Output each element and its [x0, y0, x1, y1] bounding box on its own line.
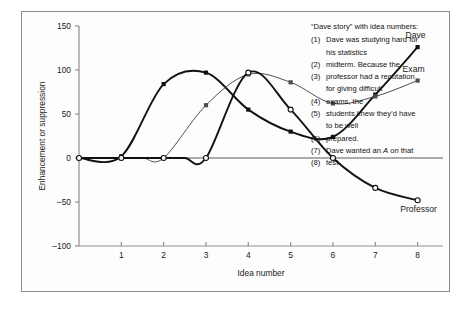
story-item-number: (3)	[311, 71, 326, 83]
story-item-text: for giving difficult	[326, 83, 463, 95]
story-item-text: Dave wanted an A on that	[326, 145, 463, 157]
data-marker-professor	[119, 156, 124, 161]
story-item: to be well	[311, 120, 463, 132]
story-item: (3)professor had a reputation	[311, 71, 463, 83]
figure-frame: –100–50050100150 12345678 DaveExamProfes…	[21, 11, 450, 292]
story-item: his statistics	[311, 47, 463, 59]
story-item-text: professor had a reputation	[326, 71, 463, 83]
story-item-text: students knew they’d have	[326, 108, 463, 120]
story-item-text: to be well	[326, 120, 463, 132]
x-tick-label: 5	[288, 250, 293, 260]
story-item: (5)students knew they’d have	[311, 108, 463, 120]
x-tick-label: 8	[415, 250, 420, 260]
x-tick-label: 1	[119, 250, 124, 260]
data-marker-professor	[203, 156, 208, 161]
data-marker-exam	[289, 80, 293, 84]
x-tick-label: 4	[246, 250, 251, 260]
story-item-number: (1)	[311, 34, 326, 46]
x-tick-label: 7	[373, 250, 378, 260]
story-item: (7)Dave wanted an A on that	[311, 145, 463, 157]
story-item-number: (7)	[311, 145, 326, 157]
story-item-text: exams, the	[326, 96, 463, 108]
y-tick-label: 50	[62, 109, 72, 119]
data-marker-professor	[373, 185, 378, 190]
story-item-number: (5)	[311, 108, 326, 120]
story-item: (1)Dave was studying hard for	[311, 34, 463, 46]
story-item-text: test.	[326, 157, 463, 169]
y-tick-label: –100	[52, 241, 71, 251]
story-panel: “Dave story” with idea numbers: (1)Dave …	[311, 21, 463, 170]
x-axis-title: Idea number	[237, 268, 284, 278]
data-marker-professor	[415, 198, 420, 203]
x-tick-label: 2	[161, 250, 166, 260]
data-marker-dave	[162, 82, 166, 86]
y-axis-title: Enhancement or suppression	[37, 81, 47, 190]
story-item-number: (8)	[311, 157, 326, 169]
story-item-text: Dave was studying hard for	[326, 34, 463, 46]
data-marker-dave	[246, 108, 250, 112]
y-tick-label: –50	[57, 197, 71, 207]
story-item: (4)exams, the	[311, 96, 463, 108]
data-marker-professor	[246, 70, 251, 75]
data-marker-exam	[204, 103, 208, 107]
data-marker-professor	[288, 107, 293, 112]
y-tick-label: 100	[57, 65, 71, 75]
story-item-number: (6)	[311, 133, 326, 145]
data-marker-dave	[289, 130, 293, 134]
data-marker-professor	[161, 156, 166, 161]
x-tick-label: 3	[204, 250, 209, 260]
story-list: (1)Dave was studying hard forhis statist…	[311, 34, 463, 169]
story-item: (2)midterm. Because the	[311, 59, 463, 71]
story-item: (6)prepared.	[311, 133, 463, 145]
x-tick-label: 6	[331, 250, 336, 260]
story-item: (8)test.	[311, 157, 463, 169]
y-axis-ticks: –100–50050100150	[52, 21, 79, 251]
story-item-number: (4)	[311, 96, 326, 108]
story-item-text: midterm. Because the	[326, 59, 463, 71]
data-marker-professor	[77, 156, 82, 161]
story-item-number: (2)	[311, 59, 326, 71]
story-item-text: prepared.	[326, 133, 463, 145]
story-item: for giving difficult	[311, 83, 463, 95]
story-item-text: his statistics	[326, 47, 463, 59]
data-marker-dave	[204, 71, 208, 75]
series-label-professor: Professor	[400, 204, 437, 214]
story-title: “Dave story” with idea numbers:	[311, 21, 463, 33]
y-tick-label: 0	[66, 153, 71, 163]
x-axis-ticks: 12345678	[119, 242, 420, 260]
y-tick-label: 150	[57, 21, 71, 31]
